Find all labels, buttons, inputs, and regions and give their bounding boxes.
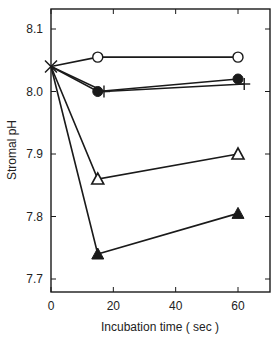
x-tick-label: 20 (107, 299, 121, 313)
x-axis-ticks: 0204060 (48, 9, 245, 313)
line-chart: 7.77.87.98.08.1 0204060 Incubation time … (0, 0, 277, 339)
series-line (51, 67, 238, 180)
open-triangle-marker (232, 148, 244, 159)
y-axis-title: Stromal pH (5, 120, 19, 180)
y-tick-label: 8.1 (26, 22, 43, 36)
series-open-triangle (51, 67, 244, 185)
x-tick-label: 0 (48, 299, 55, 313)
y-tick-label: 7.8 (26, 210, 43, 224)
x-tick-label: 40 (169, 299, 183, 313)
data-series (45, 52, 250, 259)
y-tick-label: 7.7 (26, 272, 43, 286)
series-filled-triangle (51, 67, 244, 260)
x-axis-title: Incubation time ( sec ) (101, 320, 219, 334)
y-tick-label: 8.0 (26, 85, 43, 99)
y-tick-label: 7.9 (26, 147, 43, 161)
series-line (51, 57, 238, 66)
open-circle-marker (233, 52, 243, 62)
x-tick-label: 60 (231, 299, 245, 313)
filled-triangle-marker (232, 207, 244, 218)
open-circle-marker (93, 52, 103, 62)
series-line (51, 67, 238, 255)
filled-circle-marker (233, 74, 243, 84)
series-open-circle (51, 52, 243, 66)
series-filled-circle (51, 67, 243, 97)
